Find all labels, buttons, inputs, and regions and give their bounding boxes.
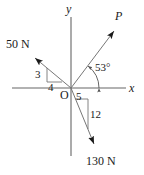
force-diagram: y x O 50 N 3 4 P 53° 5 12 130 N xyxy=(0,0,144,175)
force-130n-label: 130 N xyxy=(86,155,116,167)
triangle-130n-rise-label: 12 xyxy=(90,109,101,120)
angle-53-label: 53° xyxy=(95,62,110,73)
triangle-50n-rise-label: 3 xyxy=(35,69,41,80)
y-axis-label: y xyxy=(66,3,71,15)
triangle-50n-run-label: 4 xyxy=(48,82,54,93)
force-50n-label: 50 N xyxy=(6,38,30,50)
x-axis-label: x xyxy=(129,82,134,94)
vector-p xyxy=(71,31,114,88)
origin-label: O xyxy=(60,89,69,101)
force-p-label: P xyxy=(115,10,122,22)
vector-p-shaft xyxy=(71,31,114,88)
diagram-canvas xyxy=(0,0,144,175)
triangle-130n-run-label: 5 xyxy=(76,91,82,102)
